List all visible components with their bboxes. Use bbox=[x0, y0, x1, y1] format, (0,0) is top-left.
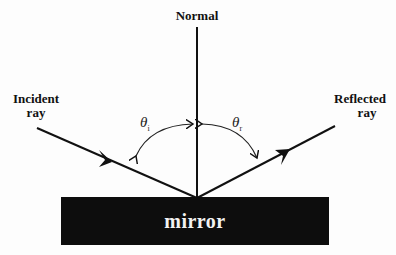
reflected-ray bbox=[197, 126, 335, 198]
mirror-block: mirror bbox=[61, 197, 329, 245]
theta-i-subscript: i bbox=[147, 124, 149, 133]
reflection-diagram: Normal Incident ray Reflected ray θi θr … bbox=[0, 0, 396, 255]
incident-label-line2: ray bbox=[6, 106, 66, 120]
incident-label-line1: Incident bbox=[6, 92, 66, 106]
theta-i-label: θi bbox=[140, 114, 150, 133]
incident-arrow-icon bbox=[99, 150, 112, 167]
reflected-label-line2: ray bbox=[326, 106, 394, 120]
theta-r-label: θr bbox=[232, 114, 242, 133]
normal-label: Normal bbox=[172, 9, 222, 23]
theta-r-arc bbox=[202, 124, 257, 158]
mirror-label: mirror bbox=[164, 210, 226, 233]
incident-ray-label: Incident ray bbox=[6, 92, 66, 120]
reflected-label-line1: Reflected bbox=[326, 92, 394, 106]
theta-r-subscript: r bbox=[239, 124, 242, 133]
reflected-ray-label: Reflected ray bbox=[326, 92, 394, 120]
incident-ray bbox=[37, 128, 197, 198]
